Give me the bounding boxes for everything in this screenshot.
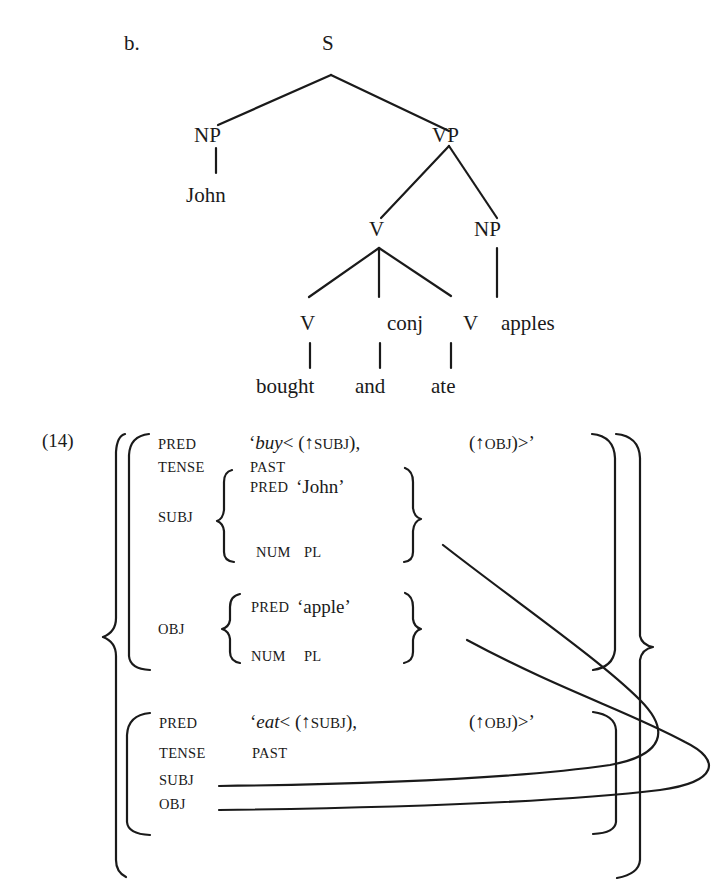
pred-args-close: )>’ [512, 711, 535, 732]
lower-obj-attr: OBJ [159, 797, 186, 812]
upper-obj-attr: OBJ [158, 622, 185, 637]
obj-function: OBJ [485, 715, 512, 731]
subj-function: SUBJ [311, 715, 346, 731]
pred-verb-buy: buy [255, 432, 282, 453]
tree-node-np-object: NP [474, 219, 501, 240]
subj-num-value: PL [304, 545, 322, 560]
lower-subj-attr: SUBJ [159, 773, 194, 788]
subj-pred-attr: PRED [250, 480, 288, 495]
pred-args-open: < ( [283, 432, 305, 453]
lower-pred-value: ‘eat< (↑SUBJ), [250, 712, 357, 731]
pred-args-sep: ), [349, 432, 360, 453]
upper-tense-value: PAST [250, 460, 285, 475]
tree-node-vp: VP [432, 125, 459, 146]
upper-pred-value: ‘buy< (↑SUBJ), [249, 433, 360, 452]
up-arrow-icon: ↑ [301, 711, 311, 732]
tree-node-v1: V [300, 313, 315, 334]
tree-leaf-and: and [355, 376, 385, 397]
tree-node-v-coordinated: V [369, 219, 384, 240]
up-arrow-icon: ↑ [475, 711, 485, 732]
lower-tense-attr: TENSE [159, 746, 206, 761]
obj-pred-value: ‘apple’ [297, 597, 351, 616]
pred-verb-eat: eat [256, 711, 279, 732]
tree-leaf-ate: ate [431, 376, 455, 397]
lower-pred-obj-arg: (↑OBJ)>’ [469, 712, 535, 731]
obj-right-brace [404, 593, 421, 663]
tree-node-s: S [322, 33, 334, 54]
figure-lines [0, 0, 725, 887]
pred-args-sep: ), [346, 711, 357, 732]
obj-left-brace [222, 594, 240, 663]
up-arrow-icon: ↑ [305, 432, 315, 453]
upper-subj-attr: SUBJ [158, 510, 193, 525]
obj-num-value: PL [304, 649, 322, 664]
example-number: (14) [42, 431, 74, 450]
subj-num-attr: NUM [256, 545, 291, 560]
tree-node-np-subject: NP [194, 125, 221, 146]
tree-leaf-john: John [186, 185, 226, 206]
outer-right-brace [616, 434, 653, 878]
upper-pred-attr: PRED [158, 437, 196, 452]
upper-pred-obj-arg: (↑OBJ)>’ [469, 433, 535, 452]
tree-edges [216, 75, 497, 368]
tree-node-v2: V [463, 313, 478, 334]
subj-function: SUBJ [314, 436, 349, 452]
subj-pred-value: ‘John’ [296, 477, 345, 496]
linguistics-figure: b. S NP VP John V NP V conj V apples bou… [0, 0, 725, 887]
obj-num-attr: NUM [251, 649, 286, 664]
obj-pred-attr: PRED [251, 600, 289, 615]
pred-args-open: < ( [280, 711, 302, 732]
tree-node-conj: conj [387, 313, 423, 334]
obj-function: OBJ [485, 436, 512, 452]
example-label: b. [124, 33, 140, 54]
subj-right-brace [404, 468, 421, 562]
pred-args-close: )>’ [512, 432, 535, 453]
outer-left-brace [103, 434, 126, 877]
up-arrow-icon: ↑ [475, 432, 485, 453]
subj-left-brace [217, 470, 234, 562]
upper-tense-attr: TENSE [158, 460, 205, 475]
tree-leaf-bought: bought [256, 376, 314, 397]
lower-pred-attr: PRED [159, 716, 197, 731]
tree-leaf-apples: apples [501, 313, 555, 334]
lower-tense-value: PAST [252, 746, 287, 761]
